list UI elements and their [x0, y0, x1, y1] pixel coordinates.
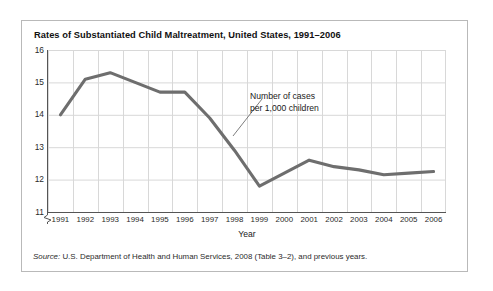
x-tick-label: 2002: [325, 215, 343, 225]
x-tick-label: 2006: [425, 215, 443, 225]
source-label: Source:: [33, 252, 60, 261]
chart-plot-block: 161514131211 199119921993199419951996199…: [22, 21, 469, 273]
y-tick-label: 12: [35, 175, 44, 184]
x-tick-label: 1998: [226, 215, 244, 225]
x-tick-label: 1999: [251, 215, 269, 225]
x-axis-line: [47, 212, 446, 213]
x-tick-label: 1991: [52, 215, 70, 225]
source-text: U.S. Department of Health and Human Serv…: [60, 252, 367, 261]
x-axis-tick-labels: 1991199219931994199519961997199819992000…: [48, 215, 446, 227]
annotation-line-2: per 1,000 children: [250, 103, 319, 115]
source-note: Source: U.S. Department of Health and Hu…: [33, 252, 367, 261]
x-tick-label: 2004: [375, 215, 393, 225]
y-tick-label: 16: [35, 46, 44, 55]
chart-annotation: Number of cases per 1,000 children: [250, 91, 319, 114]
x-tick-label: 1996: [176, 215, 194, 225]
y-tick-label: 14: [35, 110, 44, 119]
x-axis-title: Year: [48, 229, 446, 239]
y-tick-label: 15: [35, 78, 44, 87]
y-axis-tick-labels: 161514131211: [22, 21, 44, 273]
x-tick-label: 2000: [276, 215, 294, 225]
annotation-line-1: Number of cases: [250, 91, 319, 103]
x-tick-label: 1995: [151, 215, 169, 225]
x-tick-label: 2005: [400, 215, 418, 225]
x-tick-label: 2001: [300, 215, 318, 225]
figure-frame: Rates of Substantiated Child Maltreatmen…: [21, 20, 468, 272]
x-tick-label: 1994: [126, 215, 144, 225]
x-tick-label: 1993: [101, 215, 119, 225]
x-tick-label: 1997: [201, 215, 219, 225]
y-tick-label: 13: [35, 143, 44, 152]
x-tick-label: 1992: [77, 215, 95, 225]
x-tick-label: 2003: [350, 215, 368, 225]
